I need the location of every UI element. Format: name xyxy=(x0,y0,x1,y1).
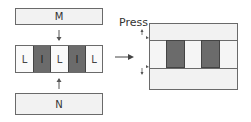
pressed-assembly xyxy=(149,23,238,90)
stack-cell-l: L xyxy=(16,46,33,72)
pressure-marker-bottom-icon xyxy=(140,64,150,76)
stack-cell-l: L xyxy=(51,46,68,72)
arrow-down-icon xyxy=(55,30,63,42)
plate-n: N xyxy=(15,93,103,115)
pressure-marker-top-icon xyxy=(140,29,150,41)
lower-plate xyxy=(150,68,237,89)
plate-m-label: M xyxy=(16,11,102,22)
insert-dark-1 xyxy=(166,40,185,68)
arrow-right-icon xyxy=(115,53,135,61)
upper-plate xyxy=(150,24,237,41)
layer-stack: L I L I L xyxy=(15,45,103,73)
arrow-up-icon xyxy=(55,77,63,89)
plate-n-label: N xyxy=(16,99,102,110)
press-label: Press xyxy=(119,16,148,29)
stack-cell-i: I xyxy=(33,46,51,72)
insert-dark-2 xyxy=(201,40,220,68)
stack-cell-i: I xyxy=(68,46,86,72)
plate-m: M xyxy=(15,8,103,25)
stack-cell-l: L xyxy=(86,46,102,72)
